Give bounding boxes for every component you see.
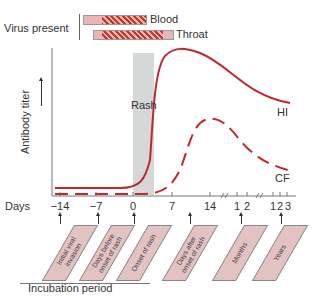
cf-curve-label: CF	[275, 172, 290, 184]
tag-arrow	[241, 215, 242, 224]
tick-label: 14	[204, 200, 216, 212]
tag-arrow	[134, 215, 135, 224]
stage-tag-text: Months	[231, 241, 249, 265]
tag-arrow	[98, 215, 99, 224]
tag-arrow	[60, 215, 61, 224]
tick-label: −14	[51, 200, 70, 212]
tag-arrow	[190, 215, 191, 224]
tick-label: 0	[130, 200, 136, 212]
tick-label: 2	[244, 200, 250, 212]
rash-band	[133, 53, 154, 195]
tick-label: 3	[285, 200, 291, 212]
incubation-label: Incubation period	[28, 282, 112, 294]
x-axis-tick-marks	[60, 192, 287, 196]
tick-label: 2	[277, 200, 283, 212]
stage-tag-text: Years	[272, 243, 288, 262]
hi-curve	[55, 49, 290, 188]
tag-arrow	[281, 215, 282, 224]
hi-curve-label: HI	[277, 106, 288, 118]
tick-label: 7	[169, 200, 175, 212]
cf-curve	[55, 119, 288, 194]
x-axis-prefix: Days	[5, 200, 30, 212]
tick-label: −7	[90, 200, 103, 212]
tick-label: 1	[270, 200, 276, 212]
tick-label: 1	[234, 200, 240, 212]
rash-label: Rash	[131, 99, 157, 111]
